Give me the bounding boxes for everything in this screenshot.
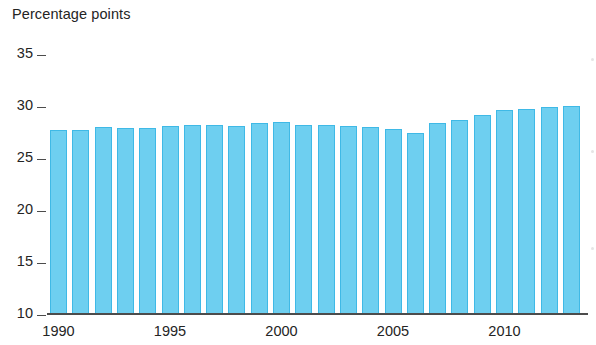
- bar: [340, 126, 357, 313]
- scan-artifact-icon: [591, 58, 594, 61]
- bar: [295, 125, 312, 313]
- bar: [429, 123, 446, 313]
- bar: [95, 127, 112, 313]
- bar: [206, 125, 223, 313]
- y-axis-tick-mark: [37, 159, 46, 160]
- y-axis-tick-label: 30: [0, 97, 46, 113]
- y-axis-tick-label: 35: [0, 45, 46, 61]
- x-axis-tick-label: 1995: [154, 323, 186, 339]
- bar: [50, 130, 67, 313]
- bar: [72, 130, 89, 313]
- bar: [251, 123, 268, 313]
- bar: [407, 133, 424, 313]
- scan-artifact-icon: [591, 150, 594, 153]
- bar: [162, 126, 179, 313]
- bar: [518, 109, 535, 313]
- bar: [496, 110, 513, 313]
- y-axis-tick-label: 25: [0, 149, 46, 165]
- bar: [318, 125, 335, 313]
- x-axis-tick-label: 2010: [488, 323, 520, 339]
- chart-container: Percentage points 101520253035 199019952…: [0, 0, 596, 345]
- x-axis-tick-label: 1990: [42, 323, 74, 339]
- y-axis-tick-mark: [37, 211, 46, 212]
- bar: [139, 128, 156, 313]
- y-axis-tick-mark: [37, 107, 46, 108]
- bars-layer: [0, 0, 596, 345]
- bar: [563, 106, 580, 313]
- bar: [541, 107, 558, 313]
- y-axis-tick-mark: [37, 55, 46, 56]
- bar: [474, 115, 491, 313]
- x-axis-tick-label: 2000: [265, 323, 297, 339]
- bar: [451, 120, 468, 313]
- y-axis-tick-label: 20: [0, 201, 46, 217]
- y-axis-tick-mark: [37, 263, 46, 264]
- bar: [184, 125, 201, 313]
- y-axis-tick-label: 15: [0, 253, 46, 269]
- y-axis-tick-mark: [37, 315, 46, 316]
- bar: [362, 127, 379, 313]
- x-axis-tick-label: 2005: [377, 323, 409, 339]
- bar: [273, 122, 290, 313]
- x-axis-line: [47, 313, 588, 315]
- y-axis-tick-label: 10: [0, 305, 46, 321]
- scan-artifact-icon: [591, 247, 594, 250]
- bar: [385, 129, 402, 313]
- bar: [228, 126, 245, 313]
- plot-area: 101520253035 19901995200020052010: [0, 0, 596, 345]
- bar: [117, 128, 134, 313]
